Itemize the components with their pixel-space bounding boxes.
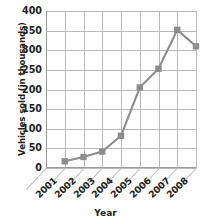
y-tick-300: 300: [22, 45, 42, 55]
line-chart: Vehicles sold (in thousands) 05010015020…: [0, 0, 211, 224]
series-line: [65, 30, 196, 161]
gridline-v: [196, 11, 197, 168]
y-tick-100: 100: [22, 124, 42, 134]
y-tick-350: 350: [22, 26, 42, 36]
data-point-2004: [99, 148, 105, 154]
data-point-2008: [174, 27, 180, 33]
data-series-vehicles-sold: [46, 11, 196, 168]
y-tick-250: 250: [22, 65, 42, 75]
data-point-2006: [137, 84, 143, 90]
y-tick-150: 150: [22, 104, 42, 114]
x-axis-title: Year: [0, 208, 211, 218]
y-tick-200: 200: [22, 85, 42, 95]
data-point-2003: [80, 154, 86, 160]
data-point-2002: [62, 158, 68, 164]
data-point-2009: [193, 43, 199, 49]
y-tick-400: 400: [22, 6, 42, 16]
data-point-2005: [118, 133, 124, 139]
y-tick-50: 50: [29, 143, 42, 153]
plot-area: [46, 11, 196, 168]
data-point-2007: [155, 65, 161, 71]
